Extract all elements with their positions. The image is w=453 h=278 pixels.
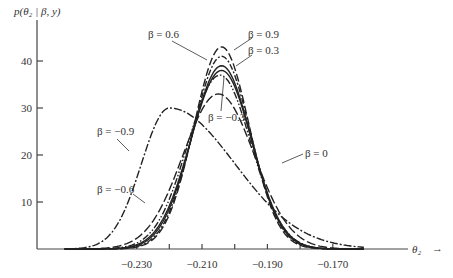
x-tick-label: −0.210 <box>187 258 218 270</box>
label-beta-m0.3: β = −0.3 <box>208 111 246 123</box>
density-chart: 10203040 −0.230−0.210−0.190−0.170 p(θ₂ |… <box>0 0 453 278</box>
x-tick-label: −0.170 <box>317 258 348 270</box>
leader-beta-0.3 <box>236 55 252 66</box>
leader-beta-m0.9 <box>117 139 129 151</box>
x-axis-label: θ₂ <box>412 243 421 255</box>
label-beta-m0.6: β = −0.6 <box>97 183 135 195</box>
leader-beta-0 <box>282 154 303 163</box>
series-curve-4 <box>65 75 364 249</box>
series-curve-3 <box>65 70 364 249</box>
label-beta-0.9: β = 0.9 <box>248 28 280 40</box>
label-beta-0.6: β = 0.6 <box>148 28 180 40</box>
x-tick-label: −0.190 <box>252 258 283 270</box>
label-beta-0: β = 0 <box>305 147 328 159</box>
x-tick-label: −0.230 <box>121 258 152 270</box>
y-tick-label: 40 <box>21 55 33 67</box>
y-ticks: 10203040 <box>21 55 43 208</box>
y-axis-label: p(θ₂ | β, y) <box>13 5 61 18</box>
label-beta-m0.9: β = −0.9 <box>97 125 135 137</box>
x-axis-arrow-icon: → <box>432 242 443 254</box>
y-tick-label: 30 <box>21 102 33 114</box>
y-tick-label: 10 <box>21 196 33 208</box>
leader-beta-m0.6 <box>133 194 145 203</box>
y-tick-label: 20 <box>21 149 33 161</box>
label-beta-0.3: β = 0.3 <box>248 44 280 56</box>
leader-beta-0.6 <box>172 41 207 60</box>
